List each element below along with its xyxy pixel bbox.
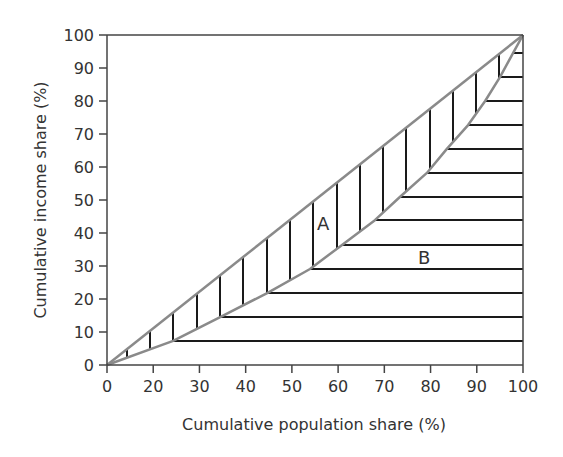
x-tick-label: 30 bbox=[189, 377, 209, 396]
x-tick-label: 0 bbox=[102, 377, 112, 396]
horizontal-hatching-area-b bbox=[173, 53, 523, 341]
x-tick-label: 100 bbox=[508, 377, 539, 396]
y-tick-label: 90 bbox=[74, 59, 94, 78]
y-axis-ticks: 0102030405060708090100 bbox=[63, 26, 107, 375]
y-tick-label: 80 bbox=[74, 92, 94, 111]
x-tick-label: 60 bbox=[328, 377, 348, 396]
y-tick-label: 50 bbox=[74, 191, 94, 210]
y-tick-label: 60 bbox=[74, 158, 94, 177]
x-tick-label: 20 bbox=[143, 377, 163, 396]
x-axis-ticks: 02030405060708090100 bbox=[102, 365, 538, 396]
x-tick-label: 80 bbox=[420, 377, 440, 396]
x-tick-label: 50 bbox=[282, 377, 302, 396]
x-axis-title: Cumulative population share (%) bbox=[182, 415, 446, 434]
line-of-equality bbox=[107, 35, 523, 365]
y-tick-label: 10 bbox=[74, 323, 94, 342]
y-tick-label: 0 bbox=[84, 356, 94, 375]
y-tick-label: 30 bbox=[74, 257, 94, 276]
lorenz-chart: 0102030405060708090100 02030405060708090… bbox=[0, 0, 563, 457]
x-tick-label: 70 bbox=[374, 377, 394, 396]
y-axis-title: Cumulative income share (%) bbox=[31, 81, 50, 318]
x-tick-label: 90 bbox=[467, 377, 487, 396]
region-b-label: B bbox=[418, 247, 430, 268]
y-tick-label: 40 bbox=[74, 224, 94, 243]
y-tick-label: 70 bbox=[74, 125, 94, 144]
y-tick-label: 20 bbox=[74, 290, 94, 309]
x-tick-label: 40 bbox=[235, 377, 255, 396]
region-a-label: A bbox=[317, 213, 330, 234]
y-tick-label: 100 bbox=[63, 26, 94, 45]
